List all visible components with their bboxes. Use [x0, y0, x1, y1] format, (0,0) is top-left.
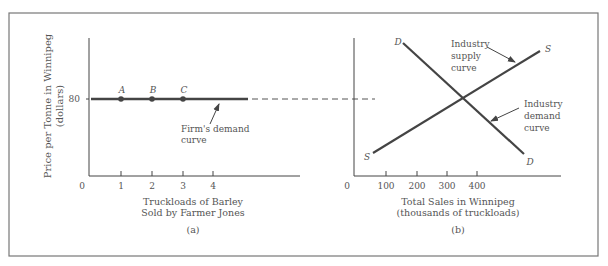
point-a [118, 96, 124, 102]
x-tick-label-0: 0 [344, 181, 350, 191]
y-axis-label-units: (dollars) [54, 85, 65, 128]
supply-label-top: S [545, 44, 551, 54]
demand-arrow [491, 108, 519, 121]
demand-label-top: D [393, 37, 401, 47]
x-tick-label-100: 100 [377, 181, 394, 191]
panel-label-a: (a) [186, 224, 199, 235]
supply-annotation-3: curve [451, 63, 477, 73]
x-tick-label-200: 200 [408, 181, 425, 191]
point-label-a: A [118, 85, 126, 95]
firm-demand-label: Firm's demand [181, 124, 250, 134]
x-tick-label-300: 300 [438, 181, 455, 191]
demand-label-bottom: D [525, 157, 533, 167]
x-axis-label-a-2: Sold by Farmer Jones [141, 207, 244, 218]
y-axis-label: Price per Tonne in Winnipeg [42, 33, 53, 178]
x-axis-label-b-2: (thousands of truckloads) [396, 207, 519, 218]
demand-annotation: Industry [524, 99, 563, 109]
firm-demand-arrow [210, 104, 219, 124]
x-tick-label-1: 1 [118, 181, 124, 191]
point-label-b: B [149, 85, 157, 95]
figure-frame [9, 13, 598, 256]
x-tick-label-0: 0 [79, 181, 85, 191]
point-label-c: C [181, 85, 188, 95]
firm-demand-label-2: curve [181, 135, 207, 145]
x-axis-label-a: Truckloads of Barley [143, 196, 244, 207]
figure: Price per Tonne in Winnipeg (dollars) 80… [0, 0, 608, 266]
demand-annotation-2: demand [524, 111, 561, 121]
panel-label-b: (b) [451, 224, 465, 235]
demand-annotation-3: curve [524, 123, 550, 133]
panel-b: 0 100 200 300 400 D D S S Industry suppl… [344, 37, 563, 235]
x-tick-label-2: 2 [149, 181, 155, 191]
x-tick-label-400: 400 [468, 181, 485, 191]
point-c [180, 96, 186, 102]
supply-annotation-2: supply [451, 51, 482, 61]
supply-label-bottom: S [364, 152, 370, 162]
y-tick-label-80: 80 [69, 94, 81, 104]
panel-a: Price per Tonne in Winnipeg (dollars) 80… [42, 33, 375, 235]
supply-arrow [487, 47, 515, 62]
point-b [149, 96, 155, 102]
x-tick-label-3: 3 [180, 181, 186, 191]
x-axis-label-b: Total Sales in Winnipeg [401, 196, 514, 207]
supply-annotation: Industry [451, 39, 490, 49]
x-tick-label-4: 4 [210, 181, 216, 191]
